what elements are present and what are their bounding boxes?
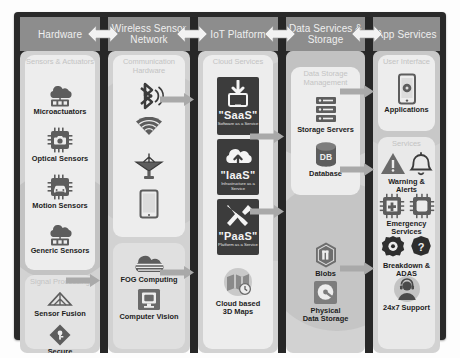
tile-saas: "SaaS" Software as a Service — [217, 77, 259, 135]
wifi-icon — [134, 117, 164, 137]
tile-iaas: "IaaS" Infrastructure as a Service — [217, 139, 259, 195]
tile-name-paas: "PaaS" — [217, 230, 259, 242]
column-body-iot-platform: Cloud Services "SaaS" Software as a Serv… — [198, 51, 278, 353]
link-arrow-data-to-app-mid — [340, 163, 374, 176]
gutter-1 — [100, 17, 108, 353]
item-label: Storage Servers — [291, 126, 360, 134]
link-arrow-data-to-app-bottom — [340, 262, 374, 275]
svg-text:DB: DB — [319, 152, 331, 162]
tile-name-iaas: "IaaS" — [217, 169, 259, 181]
item-storage-servers: Storage Servers — [291, 95, 360, 134]
panel-services: Services Warning & Alerts — [378, 137, 435, 349]
tile-sub-iaas: Infrastructure as a Service — [217, 181, 259, 191]
link-arrow-hardware-to-wsn — [66, 274, 100, 287]
database-icon: DB — [313, 141, 339, 169]
column-header-app-services: App Services — [373, 17, 440, 51]
shield-key-icon — [48, 323, 72, 347]
warning-bell-icon — [379, 151, 435, 177]
item-label: Generic Sensors — [25, 247, 95, 255]
wrench-screwdriver-icon — [224, 202, 252, 229]
header-arrow-iot-to-data — [265, 26, 295, 42]
item-tablet — [113, 189, 185, 220]
item-cloud-3d-maps: Cloud based 3D Maps — [203, 267, 273, 317]
item-computer-vision: Computer Vision — [113, 287, 185, 321]
item-label: Secure — [25, 348, 95, 353]
panel-title-user-interface: User Interface — [378, 58, 435, 67]
header-arrow-wsn-to-iot — [177, 26, 207, 42]
column-data-services-storage: Data Services & Storage Data Storage Man… — [286, 17, 365, 353]
item-label: 24x7 Support — [378, 304, 435, 312]
item-24x7-support: 24x7 Support — [378, 275, 435, 312]
column-app-services: App Services User Interface Applications — [373, 17, 440, 353]
item-label: Cloud based 3D Maps — [203, 300, 273, 317]
item-warning-alerts: Warning & Alerts — [378, 151, 435, 195]
blob-hexagon-icon — [313, 241, 339, 269]
fusion-triangle-icon — [45, 291, 75, 309]
item-label: Physical Data Storage — [286, 307, 365, 324]
item-breakdown-adas: ? Breakdown & ADAS — [378, 235, 435, 279]
item-physical-data-storage: Physical Data Storage — [286, 279, 365, 324]
panel-fog-vision: FOG Computing Computer Vision — [113, 243, 185, 349]
item-label: Sensor Fusion — [25, 310, 95, 318]
download-monitor-icon — [225, 80, 251, 108]
support-agent-icon — [393, 275, 421, 303]
hard-disk-icon — [312, 279, 339, 306]
vision-monitor-icon — [136, 287, 162, 312]
link-arrow-wsn-to-iot-top — [160, 93, 194, 106]
panel-sensors-actuators: Sensors & Actuators Microactuators — [25, 55, 95, 270]
item-secure: Secure — [25, 323, 95, 353]
item-motion-sensors: Motion Sensors — [25, 174, 95, 210]
link-arrow-iot-to-data-lower — [250, 205, 284, 218]
satellite-dish-icon — [133, 151, 165, 181]
column-body-hardware: Sensors & Actuators Microactuators — [20, 51, 100, 353]
item-optical-sensors: Optical Sensors — [25, 127, 95, 163]
smartphone-app-icon — [396, 73, 418, 105]
panel-title-communication-hardware: Communication Hardware — [113, 58, 185, 75]
svg-text:?: ? — [417, 241, 424, 253]
iot-architecture-diagram: Hardware Sensors & Actuators Microactuat… — [0, 0, 460, 358]
camera-chip-icon — [46, 127, 74, 154]
item-label: Motion Sensors — [25, 202, 95, 210]
gear-question-icon: ? — [379, 235, 435, 261]
column-hardware: Hardware Sensors & Actuators Microactuat… — [20, 17, 100, 353]
item-wifi — [113, 117, 185, 138]
item-label: Applications — [378, 106, 435, 114]
item-label: Computer Vision — [113, 313, 185, 321]
cloud-actuator-icon — [45, 81, 75, 107]
column-wireless-sensor-network: Wireless Sensor Network Communication Ha… — [108, 17, 190, 353]
item-microactuators: Microactuators — [25, 81, 95, 116]
car-chip-icon — [46, 174, 74, 201]
panel-cloud-services: Cloud Services "SaaS" Software as a Serv… — [203, 55, 273, 349]
panel-title-cloud-services: Cloud Services — [203, 58, 273, 67]
header-arrow-data-to-app — [352, 26, 382, 42]
column-body-app-services: User Interface Applications Services — [373, 51, 440, 353]
item-satellite-dish — [113, 151, 185, 182]
gutter-3 — [278, 17, 286, 353]
cloud-upload-icon — [223, 142, 253, 168]
tile-sub-paas: Platform as a Service — [217, 242, 259, 247]
tile-sub-saas: Software as a Service — [217, 121, 259, 126]
item-applications: Applications — [378, 73, 435, 114]
item-sensor-fusion: Sensor Fusion — [25, 291, 95, 318]
item-label: Optical Sensors — [25, 155, 95, 163]
column-iot-platform: IoT Platform Cloud Services "SaaS" Softw… — [198, 17, 278, 353]
server-rack-icon — [312, 95, 340, 125]
link-arrow-iot-to-data — [250, 130, 284, 143]
link-arrow-data-to-app-top — [340, 85, 374, 98]
map-3d-icon — [220, 267, 256, 299]
item-generic-sensors: Generic Sensors — [25, 220, 95, 255]
panel-user-interface: User Interface Applications — [378, 55, 435, 131]
header-arrow-hardware-to-wsn — [88, 26, 118, 42]
tile-name-saas: "SaaS" — [217, 109, 259, 121]
tablet-icon — [138, 189, 160, 219]
panel-communication-hardware: Communication Hardware — [113, 55, 185, 237]
item-emergency-services: Emergency Services — [378, 193, 435, 237]
cloud-sensor-icon — [45, 220, 75, 246]
link-arrow-wsn-to-iot-bottom — [160, 266, 194, 279]
gutter-4 — [365, 17, 373, 353]
item-label: Microactuators — [25, 108, 95, 116]
panel-title-services: Services — [378, 140, 435, 149]
emergency-chips-icon — [378, 193, 436, 219]
panel-title-sensors-actuators: Sensors & Actuators — [25, 58, 95, 67]
gutter-2 — [190, 17, 198, 353]
